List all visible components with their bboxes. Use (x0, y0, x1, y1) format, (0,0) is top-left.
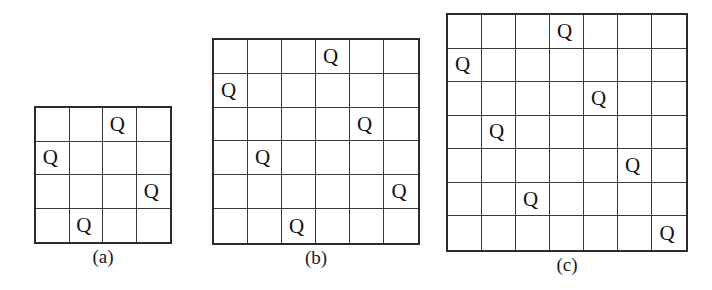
board-cell-empty[interactable] (350, 40, 384, 74)
board-cell-empty[interactable] (350, 175, 384, 209)
board-cell-empty[interactable] (584, 216, 618, 250)
board-cell-empty[interactable] (482, 183, 516, 217)
board-cell-empty[interactable] (316, 108, 350, 142)
board-cell-empty[interactable] (652, 149, 686, 183)
board-cell-empty[interactable] (550, 49, 584, 83)
board-cell-empty[interactable] (316, 209, 350, 243)
board-cell-empty[interactable] (316, 141, 350, 175)
board-cell-empty[interactable] (618, 216, 652, 250)
board-cell-empty[interactable] (384, 74, 418, 108)
board-cell-empty[interactable] (516, 82, 550, 116)
board-cell-empty[interactable] (618, 183, 652, 217)
board-cell-empty[interactable] (618, 15, 652, 49)
board-cell-empty[interactable] (350, 141, 384, 175)
board-cell-empty[interactable] (384, 40, 418, 74)
board-cell-empty[interactable] (652, 15, 686, 49)
board-cell-empty[interactable] (36, 108, 70, 142)
board-cell-empty[interactable] (618, 49, 652, 83)
board-cell-empty[interactable] (316, 175, 350, 209)
board-cell-empty[interactable] (448, 216, 482, 250)
board-cell-empty[interactable] (448, 82, 482, 116)
board-cell-empty[interactable] (482, 15, 516, 49)
board-cell-empty[interactable] (550, 216, 584, 250)
board-cell-empty[interactable] (70, 142, 104, 176)
board-cell-queen[interactable]: Q (516, 183, 550, 217)
board-cell-empty[interactable] (137, 142, 171, 176)
board-cell-empty[interactable] (652, 183, 686, 217)
board-cell-empty[interactable] (584, 183, 618, 217)
board-cell-empty[interactable] (448, 183, 482, 217)
board-cell-empty[interactable] (550, 116, 584, 150)
board-cell-queen[interactable]: Q (103, 108, 137, 142)
board-cell-empty[interactable] (282, 74, 316, 108)
board-cell-empty[interactable] (584, 49, 618, 83)
board-cell-empty[interactable] (248, 209, 282, 243)
board-cell-queen[interactable]: Q (316, 40, 350, 74)
board-cell-empty[interactable] (652, 49, 686, 83)
board-cell-empty[interactable] (516, 116, 550, 150)
board-a[interactable]: QQQQ (34, 106, 172, 244)
board-cell-empty[interactable] (516, 149, 550, 183)
board-cell-empty[interactable] (516, 15, 550, 49)
board-cell-empty[interactable] (137, 108, 171, 142)
board-cell-empty[interactable] (652, 116, 686, 150)
board-cell-empty[interactable] (282, 141, 316, 175)
board-cell-empty[interactable] (516, 49, 550, 83)
board-cell-empty[interactable] (448, 15, 482, 49)
board-cell-empty[interactable] (384, 141, 418, 175)
board-cell-empty[interactable] (214, 40, 248, 74)
board-cell-empty[interactable] (214, 108, 248, 142)
board-cell-empty[interactable] (316, 74, 350, 108)
board-cell-empty[interactable] (248, 74, 282, 108)
board-cell-empty[interactable] (248, 175, 282, 209)
board-cell-empty[interactable] (584, 15, 618, 49)
board-cell-empty[interactable] (137, 209, 171, 243)
board-cell-empty[interactable] (516, 216, 550, 250)
board-cell-queen[interactable]: Q (248, 141, 282, 175)
board-cell-queen[interactable]: Q (550, 15, 584, 49)
board-cell-empty[interactable] (350, 209, 384, 243)
board-cell-empty[interactable] (282, 40, 316, 74)
board-cell-queen[interactable]: Q (448, 49, 482, 83)
board-cell-empty[interactable] (482, 149, 516, 183)
board-cell-queen[interactable]: Q (36, 142, 70, 176)
board-cell-empty[interactable] (618, 116, 652, 150)
board-cell-empty[interactable] (282, 108, 316, 142)
board-cell-queen[interactable]: Q (214, 74, 248, 108)
board-cell-empty[interactable] (384, 209, 418, 243)
board-cell-queen[interactable]: Q (350, 108, 384, 142)
board-cell-empty[interactable] (584, 116, 618, 150)
board-cell-queen[interactable]: Q (282, 209, 316, 243)
board-cell-empty[interactable] (584, 149, 618, 183)
board-cell-empty[interactable] (36, 175, 70, 209)
board-cell-empty[interactable] (482, 82, 516, 116)
board-cell-empty[interactable] (282, 175, 316, 209)
board-cell-empty[interactable] (36, 209, 70, 243)
board-b[interactable]: QQQQQQ (212, 38, 420, 245)
board-cell-empty[interactable] (384, 108, 418, 142)
board-c[interactable]: QQQQQQQ (446, 13, 688, 252)
board-cell-empty[interactable] (103, 209, 137, 243)
board-cell-empty[interactable] (550, 82, 584, 116)
board-cell-empty[interactable] (214, 175, 248, 209)
board-cell-empty[interactable] (652, 82, 686, 116)
board-cell-empty[interactable] (248, 108, 282, 142)
board-cell-queen[interactable]: Q (584, 82, 618, 116)
board-cell-empty[interactable] (214, 141, 248, 175)
board-cell-empty[interactable] (448, 116, 482, 150)
board-cell-empty[interactable] (618, 82, 652, 116)
board-cell-queen[interactable]: Q (618, 149, 652, 183)
board-cell-empty[interactable] (248, 40, 282, 74)
board-cell-empty[interactable] (103, 175, 137, 209)
board-cell-queen[interactable]: Q (137, 175, 171, 209)
board-cell-empty[interactable] (550, 149, 584, 183)
board-cell-empty[interactable] (448, 149, 482, 183)
board-cell-empty[interactable] (482, 216, 516, 250)
board-cell-empty[interactable] (550, 183, 584, 217)
board-cell-queen[interactable]: Q (70, 209, 104, 243)
board-cell-queen[interactable]: Q (482, 116, 516, 150)
board-cell-queen[interactable]: Q (384, 175, 418, 209)
board-cell-empty[interactable] (70, 175, 104, 209)
board-cell-empty[interactable] (103, 142, 137, 176)
board-cell-empty[interactable] (482, 49, 516, 83)
